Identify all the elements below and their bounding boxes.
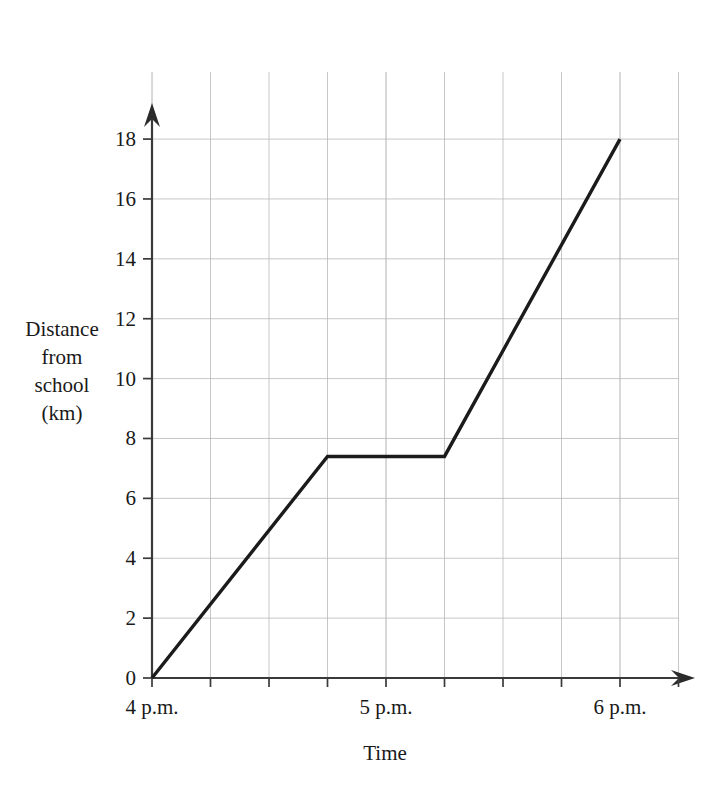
y-axis-title-line: school [35,373,90,397]
y-tick-label: 2 [126,606,137,630]
y-tick-label: 4 [126,546,137,570]
y-tick-label: 0 [126,666,137,690]
y-tick-label: 10 [115,367,136,391]
y-tick-label: 16 [115,187,136,211]
chart-canvas: 024681012141618 4 p.m.5 p.m.6 p.m. Dista… [0,0,716,797]
y-tick-label: 12 [115,307,136,331]
x-axis-title: Time [363,741,407,765]
x-tick-label: 4 p.m. [125,695,178,719]
y-axis-title-line: Distance [25,317,98,341]
x-tick-label: 6 p.m. [593,695,646,719]
y-tick-label: 14 [115,247,137,271]
y-axis-title-line: (km) [42,401,83,425]
y-tick-label: 8 [126,426,137,450]
y-tick-label: 6 [126,486,137,510]
y-tick-label: 18 [115,127,136,151]
x-tick-label: 5 p.m. [359,695,412,719]
y-axis-title-line: from [42,345,83,369]
distance-time-graph-figure: 024681012141618 4 p.m.5 p.m.6 p.m. Dista… [0,0,716,797]
